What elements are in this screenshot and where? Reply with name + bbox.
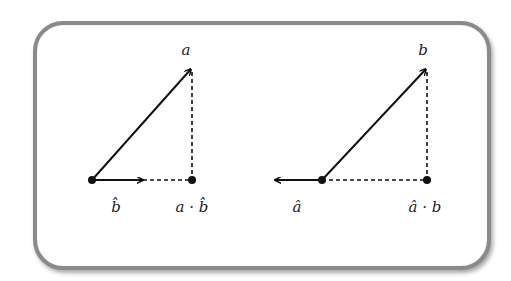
panel-right: b â â · b — [275, 41, 441, 216]
label-projection-a-dot-b-hat: a · b̂ — [176, 197, 209, 216]
projection-diagram: a b̂ a · b̂ b â â · b — [0, 0, 511, 281]
origin-dot-right — [318, 176, 326, 184]
label-projection-a-hat-dot-b: â · b — [409, 198, 442, 216]
label-vector-b: b — [418, 41, 428, 59]
projection-dot-right — [423, 176, 431, 184]
vector-a-arrow — [92, 69, 191, 180]
label-unit-b-hat: b̂ — [111, 197, 121, 216]
label-unit-a-hat: â — [293, 198, 302, 216]
projection-dot-left — [188, 176, 196, 184]
label-vector-a: a — [182, 41, 191, 59]
panel-left: a b̂ a · b̂ — [88, 41, 208, 216]
vector-b-arrow — [322, 69, 426, 180]
origin-dot-left — [88, 176, 96, 184]
